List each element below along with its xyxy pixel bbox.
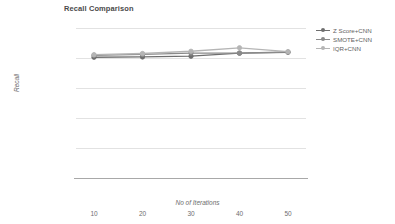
data-point-marker bbox=[92, 53, 96, 57]
data-point-marker bbox=[237, 51, 241, 55]
x-axis-line bbox=[74, 178, 308, 179]
x-tick-label: 50 bbox=[273, 210, 303, 217]
data-point-marker bbox=[140, 51, 144, 55]
x-tick-label: 10 bbox=[79, 210, 109, 217]
legend-item-label: IQR+CNN bbox=[333, 44, 361, 53]
legend-marker-icon bbox=[316, 44, 330, 53]
data-point-marker bbox=[237, 46, 241, 50]
recall-comparison-chart: Recall Comparison Recall No of Iteration… bbox=[0, 0, 395, 224]
data-point-marker bbox=[286, 50, 290, 54]
plot-area: 10.80.60.40.20 1020304050 bbox=[76, 28, 306, 178]
legend-item-iqr-cnn[interactable]: IQR+CNN bbox=[316, 44, 372, 53]
x-tick-label: 20 bbox=[128, 210, 158, 217]
legend-item-label: SMOTE+CNN bbox=[333, 35, 372, 44]
legend-marker-icon bbox=[316, 35, 330, 44]
x-tick-label: 40 bbox=[225, 210, 255, 217]
y-axis-title: Recall bbox=[13, 74, 20, 92]
data-point-marker bbox=[189, 49, 193, 53]
chart-legend: Z Score+CNNSMOTE+CNNIQR+CNN bbox=[316, 26, 372, 53]
legend-item-z-score-cnn[interactable]: Z Score+CNN bbox=[316, 26, 372, 35]
legend-item-smote-cnn[interactable]: SMOTE+CNN bbox=[316, 35, 372, 44]
legend-marker-icon bbox=[316, 26, 330, 35]
chart-title: Recall Comparison bbox=[64, 4, 134, 13]
series-plot bbox=[76, 28, 306, 178]
x-tick-label: 30 bbox=[176, 210, 206, 217]
x-axis-title: No of Iterations bbox=[0, 199, 395, 206]
legend-item-label: Z Score+CNN bbox=[333, 26, 372, 35]
